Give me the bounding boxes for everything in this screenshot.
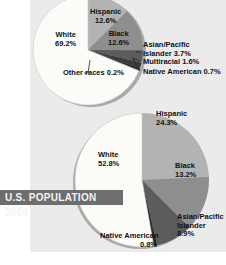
label-hispanic-current: Hispanic 12.6% xyxy=(90,8,121,25)
label-value: 12.6% xyxy=(108,39,129,48)
label-white-2050: White 52.8% xyxy=(98,151,119,168)
label-black-current: Black 12.6% xyxy=(108,30,129,47)
label-multiracial-current: Multiracial 1.6% xyxy=(143,58,199,67)
label-native-current: Native American 0.7% xyxy=(143,68,221,77)
label-value: 13.2% xyxy=(175,171,196,180)
pie-slice-white xyxy=(75,113,154,247)
chart-title-banner: U.S. POPULATION 2050 xyxy=(0,190,123,205)
label-value: 12.6% xyxy=(90,17,121,26)
label-native-2050: Native American 0.8% xyxy=(100,232,157,249)
label-black-2050: Black 13.2% xyxy=(175,162,196,179)
label-asian-2050: Asian/Pacific Islander 8.9% xyxy=(177,213,224,239)
label-value: 69.2% xyxy=(55,40,76,49)
label-value: 52.8% xyxy=(98,160,119,169)
label-hispanic-2050: Hispanic 24.3% xyxy=(156,110,187,127)
label-value: 24.3% xyxy=(156,119,187,128)
label-asian-current: Asian/Pacific Islander 3.7% xyxy=(143,41,191,58)
label-white-current: White 69.2% xyxy=(55,31,76,48)
label-value: 0.8% xyxy=(100,241,157,250)
label-value: 8.9% xyxy=(177,230,224,239)
label-other-current: Other races 0.2% xyxy=(63,69,124,78)
